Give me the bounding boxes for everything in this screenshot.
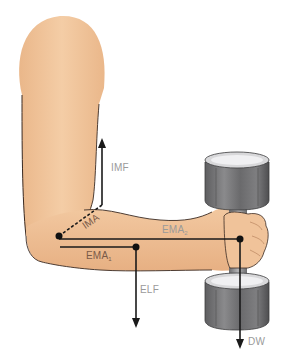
label-dw: DW <box>248 336 265 347</box>
label-elf: ELF <box>140 284 159 295</box>
dw-arrow-head <box>236 339 244 349</box>
forearm-lever-diagram: IMF IMA EMA2 EMA1 ELF DW <box>0 0 297 353</box>
imf-arrow-head <box>98 138 106 148</box>
label-ema1-main: EMA <box>86 250 108 261</box>
elbow-pivot-dot <box>56 233 63 240</box>
label-imf: IMF <box>111 162 129 173</box>
dw-point-dot <box>237 236 244 243</box>
label-ema1-sub: 1 <box>108 256 112 262</box>
hand <box>224 212 268 268</box>
elf-point-dot <box>133 244 140 251</box>
label-ema1: EMA1 <box>86 250 112 262</box>
dumbbell-top-weight <box>205 162 269 210</box>
upper-arm <box>19 16 105 236</box>
label-ema2-sub: 2 <box>184 230 188 236</box>
elf-arrow-head <box>132 318 140 328</box>
label-ema2: EMA2 <box>162 224 188 236</box>
label-ema2-main: EMA <box>162 224 184 235</box>
diagram-canvas <box>0 0 297 353</box>
